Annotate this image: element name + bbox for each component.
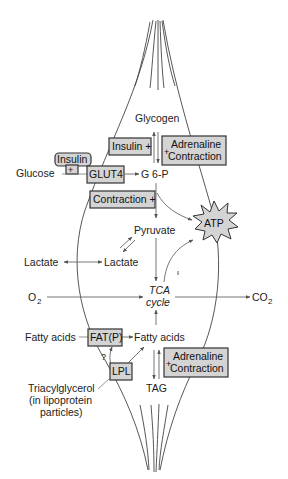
muscle-fibre-outline xyxy=(77,20,219,472)
svg-text:2: 2 xyxy=(268,297,273,306)
o2-label: O 2 xyxy=(28,291,42,306)
svg-text:2: 2 xyxy=(37,297,42,306)
tca-to-atp-arrow xyxy=(164,240,193,282)
lpl-to-fatp-arrow xyxy=(110,347,112,365)
svg-text:Contraction: Contraction xyxy=(168,150,222,162)
glut4-box: GLUT4 xyxy=(87,166,124,183)
svg-text:LPL: LPL xyxy=(112,365,131,377)
svg-text:O: O xyxy=(28,291,36,303)
fatp-box: FAT(P) xyxy=(88,329,122,346)
svg-text:Adrenaline: Adrenaline xyxy=(171,138,221,150)
contraction-plus-box: Contraction + xyxy=(90,191,156,208)
cycle-label: cycle xyxy=(146,296,170,308)
lactate-outside-label: Lactate xyxy=(24,256,59,268)
g6p-label: G 6-P xyxy=(141,168,168,180)
pyruvate-to-lactate-arrow xyxy=(123,240,135,252)
svg-text:+: + xyxy=(68,165,73,175)
svg-text:Insulin +: Insulin + xyxy=(112,140,151,152)
tag-label: TAG xyxy=(146,382,167,394)
svg-text:CO: CO xyxy=(252,291,268,303)
muscle-metabolism-diagram: Glycogen Insulin + + Adrenaline Contract… xyxy=(0,0,288,479)
svg-text:Adrenaline: Adrenaline xyxy=(173,350,223,362)
glucose-label: Glucose xyxy=(16,167,55,179)
lactate-to-pyruvate-arrow xyxy=(120,237,132,248)
svg-text:ATP: ATP xyxy=(204,217,224,229)
insulin-receptor-box: Insulin + xyxy=(55,153,91,175)
triacylglycerol-label-line1: Triacylglycerol xyxy=(28,382,95,394)
adrenaline-contraction-box-top: + Adrenaline Contraction xyxy=(162,136,226,165)
atp-starburst: ATP xyxy=(193,201,238,243)
glycolysis-to-atp-arrow xyxy=(157,193,192,220)
lactate-inside-label: Lactate xyxy=(104,256,139,268)
fatty-acids-outside-label: Fatty acids xyxy=(25,331,76,343)
adrenaline-contraction-box-bottom: + Adrenaline Contraction xyxy=(164,348,228,377)
pyruvate-label: Pyruvate xyxy=(134,224,176,236)
tca-label: TCA xyxy=(149,284,170,296)
svg-text:GLUT4: GLUT4 xyxy=(89,168,123,180)
question-mark: ? xyxy=(101,352,106,362)
insulin-plus-box: Insulin + xyxy=(109,138,151,155)
fatty-acids-inside-label: Fatty acids xyxy=(134,331,185,343)
lpl-to-fatty-acids-arrow xyxy=(128,347,144,363)
svg-text:Contraction +: Contraction + xyxy=(93,193,156,205)
triacylglycerol-line xyxy=(98,378,110,389)
triacylglycerol-label-line2: (in lipoprotein xyxy=(29,394,92,406)
co2-label: CO 2 xyxy=(252,291,273,306)
svg-text:FAT(P): FAT(P) xyxy=(90,331,122,343)
triacylglycerol-label-line3: particles) xyxy=(40,406,83,418)
svg-text:Insulin: Insulin xyxy=(57,153,88,165)
glycogen-label: Glycogen xyxy=(135,112,180,124)
lpl-box: LPL xyxy=(110,363,132,380)
svg-text:Contraction: Contraction xyxy=(170,362,224,374)
